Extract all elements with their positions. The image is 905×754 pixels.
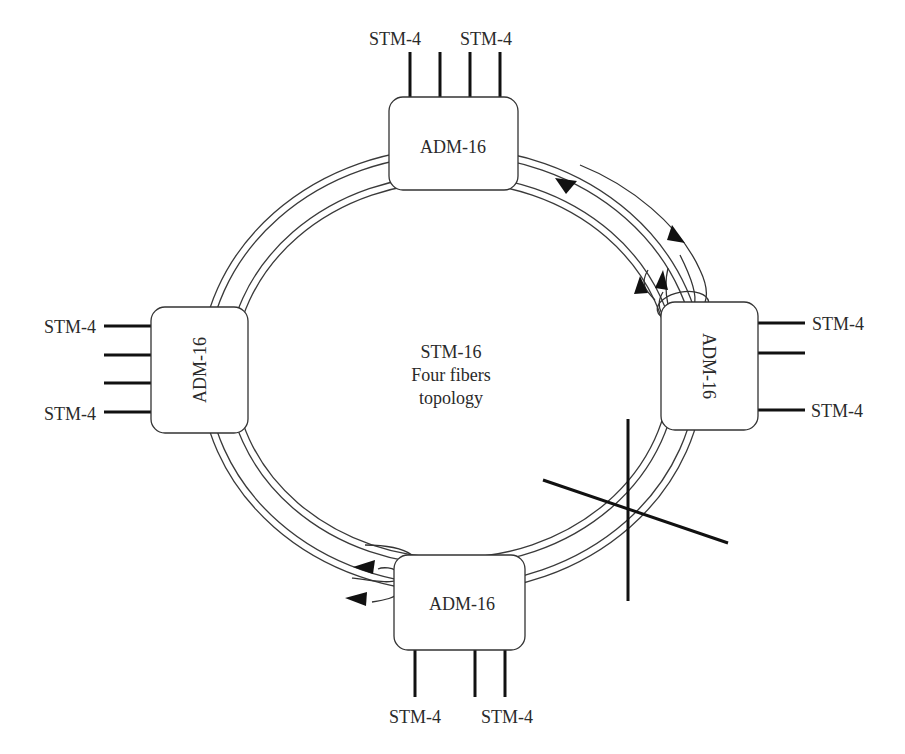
adm-node-left: ADM-16	[151, 307, 248, 433]
adm-node-bottom: ADM-16	[394, 555, 525, 650]
adm-node-right: ADM-16	[661, 302, 758, 430]
fiber-cut-marker	[543, 419, 728, 601]
tributary-label: STM-4	[369, 29, 421, 49]
tributary-label: STM-4	[812, 314, 864, 334]
ring-topology-diagram: ADM-16 ADM-16 ADM-16 ADM-16 STM-4 STM-4 …	[0, 0, 905, 754]
tributary-label: STM-4	[481, 707, 533, 727]
ring-subtitle-line1: Four fibers	[411, 365, 491, 385]
node-label: ADM-16	[699, 333, 719, 399]
tributary-label: STM-4	[44, 404, 96, 424]
tributaries-top	[410, 52, 500, 98]
arrow-icon	[667, 225, 685, 243]
ring-title: STM-16	[420, 342, 481, 362]
tributary-label: STM-4	[44, 317, 96, 337]
arrow-icon	[345, 592, 367, 606]
node-label: ADM-16	[190, 337, 210, 403]
tributaries-left	[104, 326, 151, 412]
tributaries-right	[758, 323, 805, 410]
tributary-label: STM-4	[460, 29, 512, 49]
tributaries-bottom	[415, 650, 505, 697]
ring-subtitle-line2: topology	[419, 388, 483, 408]
node-label: ADM-16	[420, 137, 486, 157]
arrow-icon	[353, 560, 375, 574]
arrow-icon	[555, 178, 577, 194]
tributary-label: STM-4	[389, 707, 441, 727]
node-label: ADM-16	[429, 594, 495, 614]
protection-path-top-right	[555, 165, 711, 324]
adm-node-top: ADM-16	[389, 97, 518, 190]
tributary-label: STM-4	[811, 401, 863, 421]
